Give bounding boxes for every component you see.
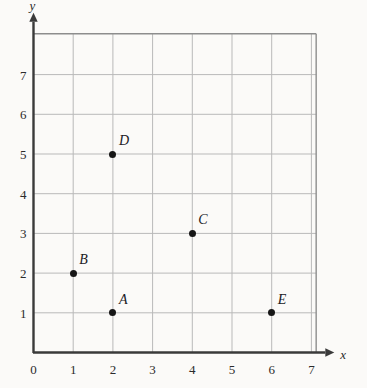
x-axis-arrowhead <box>325 348 334 356</box>
data-point-label: A <box>119 293 128 307</box>
data-point <box>189 230 196 237</box>
x-tick-label: 4 <box>189 363 196 376</box>
y-tick-label: 1 <box>14 306 27 319</box>
y-tick-label: 5 <box>14 148 27 161</box>
x-tick-label: 7 <box>308 363 315 376</box>
y-tick-label: 7 <box>14 68 27 81</box>
y-tick-label: 3 <box>14 227 27 240</box>
y-tick-label: 4 <box>14 187 27 200</box>
vertical-gridlines <box>73 34 311 353</box>
horizontal-gridlines <box>34 75 317 313</box>
x-axis-label: x <box>340 348 346 361</box>
y-tick-label: 6 <box>14 108 27 121</box>
data-point-label: D <box>119 134 129 148</box>
axis-lines <box>29 13 334 357</box>
data-point <box>109 151 116 158</box>
data-point-label: B <box>79 253 88 267</box>
x-tick-label: 1 <box>70 363 77 376</box>
coordinate-plane-figure: y x 01234567 1234567 ABCDE <box>0 0 367 388</box>
y-axis-label: y <box>30 0 36 12</box>
y-tick-label: 2 <box>14 267 27 280</box>
x-tick-label: 0 <box>30 363 37 376</box>
x-tick-label: 2 <box>110 363 117 376</box>
plot-area-border <box>34 34 317 353</box>
x-tick-label: 5 <box>229 363 236 376</box>
x-tick-label: 6 <box>268 363 275 376</box>
data-point-label: C <box>198 213 207 227</box>
x-tick-label: 3 <box>149 363 156 376</box>
data-point-label: E <box>278 293 287 307</box>
data-point <box>70 270 77 277</box>
plot-canvas <box>0 0 367 388</box>
y-axis-arrowhead <box>29 13 37 22</box>
